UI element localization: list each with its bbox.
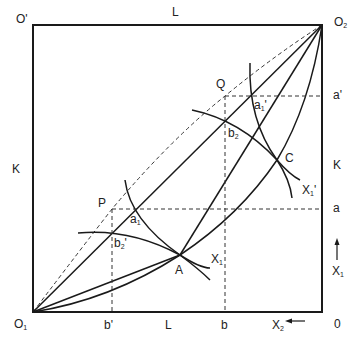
corner-o2-label: O2 [334, 16, 347, 29]
isoquant-x2-upper [192, 110, 300, 180]
axis-x1-label: X1 [332, 265, 344, 278]
diagram-canvas [0, 0, 355, 345]
corner-o1-label: O1 [14, 318, 27, 331]
tick-b-label: b [221, 319, 228, 331]
edgeworth-box-diagram: O' O2 O1 0 L L K K X2 X1 b' b a a' P Q A… [0, 0, 355, 345]
tick-b-prime-label: b' [104, 319, 113, 331]
point-a-label: A [175, 264, 183, 276]
tick-a-label: a [333, 202, 340, 214]
axis-right-k-label: K [333, 159, 341, 171]
axis-x2-label: X2 [272, 319, 284, 332]
corner-bottom-right-label: 0 [334, 318, 341, 330]
point-a1-prime-label: a1' [254, 99, 267, 112]
axis-bottom-l-label: L [165, 319, 172, 331]
curve-x1-label: X1 [211, 253, 223, 266]
curve-x1-prime-label: X1' [302, 184, 316, 197]
point-b2-label: b2 [228, 127, 239, 140]
x1-arrow-up-icon [335, 238, 340, 245]
tick-a-prime-label: a' [333, 89, 342, 101]
point-q-label: Q [216, 78, 225, 90]
point-a1-label: a1 [130, 213, 141, 226]
corner-top-left-label: O' [16, 13, 28, 25]
ray-a-o2 [180, 25, 322, 255]
point-b2-prime-label: b2' [114, 237, 127, 250]
axis-top-l-label: L [172, 6, 179, 18]
axis-left-k-label: K [12, 163, 20, 175]
point-p-label: P [98, 197, 106, 209]
point-c-label: C [285, 152, 294, 164]
x2-arrow-left-icon [285, 319, 292, 324]
